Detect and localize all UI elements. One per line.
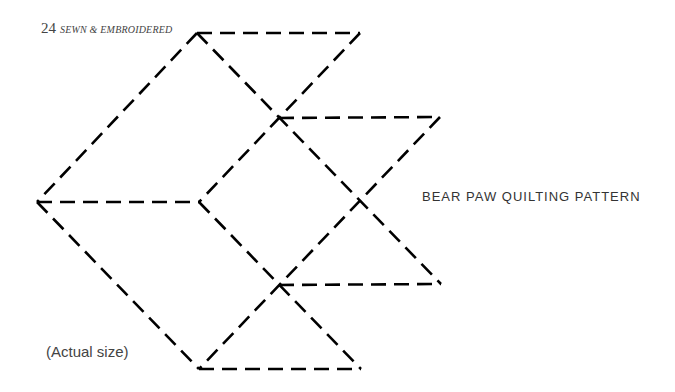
pattern-title: BEAR PAW QUILTING PATTERN bbox=[422, 189, 641, 204]
dashed-stitch-line bbox=[197, 33, 441, 284]
dashed-stitch-line bbox=[199, 117, 440, 369]
actual-size-caption: (Actual size) bbox=[46, 343, 129, 360]
dashed-stitch-line bbox=[279, 284, 441, 285]
dashed-stitch-line bbox=[279, 117, 440, 118]
dashed-stitch-line bbox=[37, 33, 197, 202]
